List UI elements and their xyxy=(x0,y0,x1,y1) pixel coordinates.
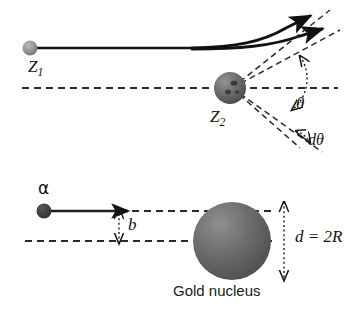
rutherford-scattering-figure: Z1 Z2 θ dθ α b d = 2R Gold nucleus xyxy=(0,0,345,311)
scattered-trajectory-outer xyxy=(192,16,310,48)
label-z1-subscript: 1 xyxy=(37,66,43,79)
label-angle-differential: dθ xyxy=(308,132,324,148)
label-impact-parameter: b xyxy=(128,216,137,233)
nucleon-speckle xyxy=(235,90,240,94)
label-nucleus-diameter: d = 2R xyxy=(295,228,342,245)
label-z1: Z1 xyxy=(28,58,43,79)
alpha-particle-dot xyxy=(37,204,52,219)
target-nucleus-sphere xyxy=(214,72,246,104)
nucleon-speckle xyxy=(225,90,231,95)
label-alpha-particle: α xyxy=(38,180,49,197)
asymptote-inner-up xyxy=(232,30,340,88)
label-scattering-angle: θ xyxy=(296,95,304,112)
nucleon-speckle xyxy=(231,80,238,85)
incident-particle-sphere xyxy=(23,41,38,56)
asymptote-outer-up xyxy=(232,10,330,88)
caption-gold-nucleus: Gold nucleus xyxy=(173,282,261,299)
gold-nucleus-sphere xyxy=(193,202,271,280)
label-z2: Z2 xyxy=(210,108,225,129)
label-z2-subscript: 2 xyxy=(219,116,225,129)
diagram-canvas xyxy=(0,0,345,311)
